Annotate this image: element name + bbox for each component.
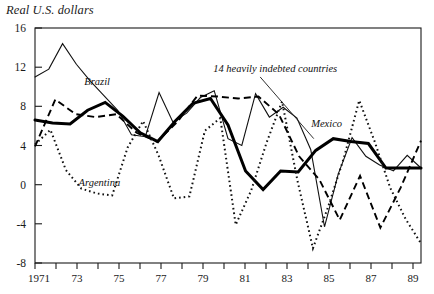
x-tick-label-73: 73 <box>72 272 83 284</box>
x-tick-marks <box>35 263 413 269</box>
x-tick-label-81: 81 <box>240 272 251 284</box>
x-tick-label-87: 87 <box>366 272 377 284</box>
series-label-mexico: Mexico <box>311 117 342 128</box>
x-tick-label-85: 85 <box>324 272 335 284</box>
y-tick-label-minus-4: -4 <box>0 218 26 230</box>
y-tick-label-minus-8: -8 <box>0 257 26 269</box>
y-tick-label-16: 16 <box>0 22 26 34</box>
y-tick-label-12: 12 <box>0 61 26 73</box>
y-tick-label-0: 0 <box>0 179 26 191</box>
x-tick-label-83: 83 <box>282 272 293 284</box>
series-line-mexico <box>35 96 421 228</box>
series-label-brazil: Brazil <box>84 75 110 86</box>
x-tick-label-79: 79 <box>198 272 209 284</box>
chart-plot-area <box>0 0 434 294</box>
x-tick-label-89: 89 <box>408 272 419 284</box>
y-tick-label-8: 8 <box>0 100 26 112</box>
x-tick-label-75: 75 <box>114 272 125 284</box>
chart-figure: Real U.S. dollars <box>0 0 434 294</box>
x-tick-label-1971: 1971 <box>28 272 50 284</box>
data-series-layer <box>35 44 421 249</box>
y-tick-label-4: 4 <box>0 140 26 152</box>
series-label-indebted: 14 heavily indebted countries <box>213 63 337 74</box>
series-label-argentina: Argentina <box>79 176 121 187</box>
x-tick-label-77: 77 <box>156 272 167 284</box>
